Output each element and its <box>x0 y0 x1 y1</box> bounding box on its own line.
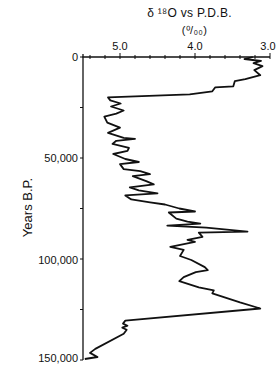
data-series-line <box>85 57 263 359</box>
chart-plot-area <box>0 0 279 366</box>
